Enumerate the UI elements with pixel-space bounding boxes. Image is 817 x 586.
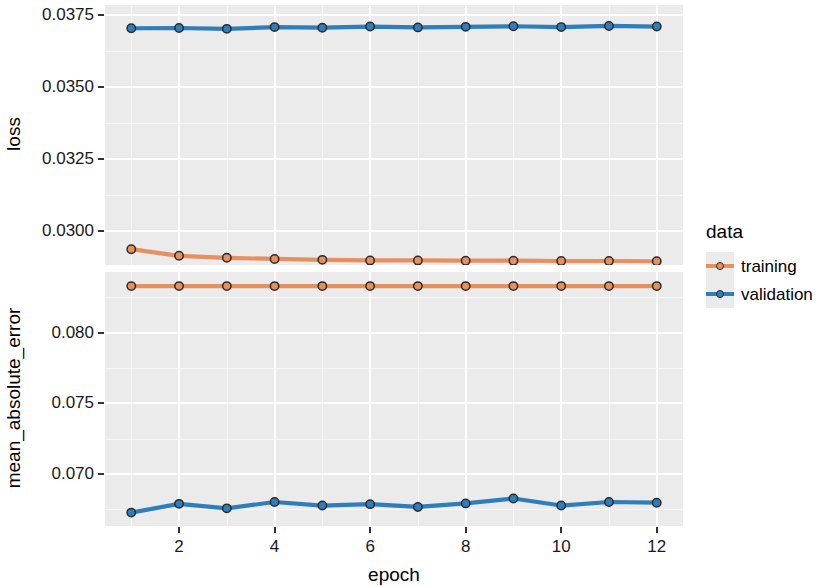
data-point: [557, 501, 565, 509]
data-point: [366, 500, 374, 508]
data-point: [557, 282, 565, 290]
data-point: [127, 282, 135, 290]
data-point: [223, 504, 231, 512]
data-point: [461, 282, 469, 290]
data-point: [318, 282, 326, 290]
data-point: [414, 282, 422, 290]
data-point: [366, 282, 374, 290]
data-point: [223, 282, 231, 290]
data-point: [175, 500, 183, 508]
data-point: [414, 503, 422, 511]
legend-title: data: [706, 222, 816, 241]
data-point: [461, 499, 469, 507]
legend: data training validation: [706, 222, 816, 308]
series-line-validation: [131, 498, 656, 512]
legend-item-training[interactable]: training: [706, 252, 816, 280]
data-point: [270, 498, 278, 506]
data-point: [127, 508, 135, 516]
data-point: [653, 499, 661, 507]
data-point: [318, 501, 326, 509]
data-point: [509, 494, 517, 502]
data-point: [605, 282, 613, 290]
data-point: [605, 498, 613, 506]
data-point: [653, 282, 661, 290]
legend-key-training-icon: [706, 252, 734, 280]
data-point: [509, 282, 517, 290]
legend-key-validation-icon: [706, 280, 734, 308]
data-point: [270, 282, 278, 290]
legend-item-validation[interactable]: validation: [706, 280, 816, 308]
legend-label-validation: validation: [741, 286, 813, 303]
legend-label-training: training: [741, 258, 797, 275]
data-point: [175, 282, 183, 290]
